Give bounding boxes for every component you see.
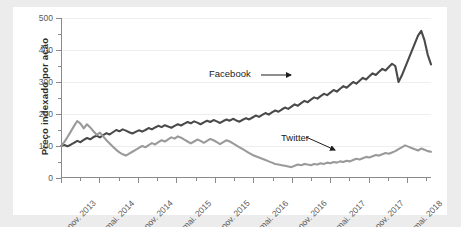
y-tick-label: 300 [39,77,53,87]
x-tick-label: mai. 2018 [411,198,444,227]
x-tick-label: nov. 2013 [65,198,98,227]
x-tick-minor [273,178,274,181]
x-tick-label: mai. 2015 [180,198,213,227]
x-tick-minor [196,178,197,181]
x-tick [138,178,139,183]
x-tick [253,178,254,183]
y-tick-label: 200 [39,109,53,119]
x-tick-minor [234,178,235,181]
x-tick [407,178,408,183]
x-tick-label: nov. 2015 [219,198,252,227]
facebook-annotation-label: Facebook [209,68,251,79]
x-tick [292,178,293,183]
x-tick-label: nov. 2016 [296,198,329,227]
y-tick-label: 100 [39,141,53,151]
x-tick-minor [349,178,350,181]
chart-panel: Preço indexado por ação 0100200300400500… [13,7,447,215]
x-tick [99,178,100,183]
x-tick-minor [119,178,120,181]
x-tick-label: mai. 2016 [257,198,290,227]
y-tick-label: 500 [39,13,53,23]
y-tick-label: 0 [48,173,53,183]
x-tick-label: nov. 2017 [372,198,405,227]
plot-area: 0100200300400500 nov. 2013mai. 2014nov. … [61,18,431,178]
x-tick [176,178,177,183]
chart-figure: Preço indexado por ação 0100200300400500… [0,0,461,227]
x-tick-label: mai. 2017 [334,198,367,227]
x-tick-minor [311,178,312,181]
y-tick-label: 400 [39,45,53,55]
x-tick-minor [388,178,389,181]
twitter-arrow [306,137,335,150]
x-tick-minor [157,178,158,181]
x-tick [330,178,331,183]
x-tick-minor [80,178,81,181]
x-tick-label: mai. 2014 [103,198,136,227]
x-tick [369,178,370,183]
x-tick-label: nov. 2014 [142,198,175,227]
x-tick [215,178,216,183]
x-tick-minor [426,178,427,181]
x-tick [61,178,62,183]
twitter-annotation-label: Twitter [281,132,309,143]
annotation-arrows [61,18,431,178]
